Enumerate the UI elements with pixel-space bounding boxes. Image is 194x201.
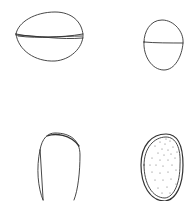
stipple-dots xyxy=(150,139,178,194)
seed-top-right xyxy=(144,20,183,70)
seed-figure xyxy=(0,0,194,201)
seed-top-left xyxy=(16,12,83,61)
seed-bottom-left xyxy=(38,133,80,200)
seed-bottom-right xyxy=(141,134,183,201)
